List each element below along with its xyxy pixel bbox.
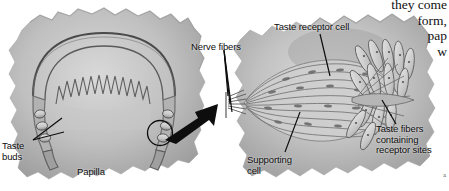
label-taste-fibers-receptor-sites: Taste fibers containing receptor sites [376, 124, 432, 156]
label-taste-buds: Taste buds [2, 141, 24, 162]
label-supporting-cell: Supporting cell [247, 155, 292, 176]
body-text-column: they come form, pap w [329, 0, 447, 59]
taste-bud-figure: Taste buds Papilla Nerve fibers Taste re… [0, 0, 449, 191]
corner-mark: a [443, 172, 446, 178]
leader-nerve-fibers-c [224, 50, 232, 112]
label-nerve-fibers: Nerve fibers [191, 42, 241, 53]
label-papilla: Papilla [77, 167, 105, 178]
